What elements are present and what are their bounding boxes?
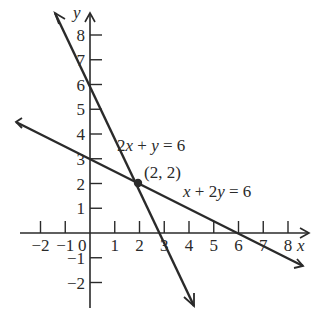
y-axis-label: y: [71, 3, 81, 22]
intersection-point: [134, 179, 142, 187]
x-tick-label: 1: [111, 236, 120, 255]
y-tick-label: 2: [77, 175, 86, 194]
equation-label-2: x + 2y = 6: [182, 182, 251, 201]
x-tick-label: 2: [135, 236, 144, 255]
x-tick-label: 8: [284, 236, 293, 255]
x-tick-label: 5: [210, 236, 219, 255]
x-tick-label: −2: [31, 236, 49, 255]
x-tick-label: 4: [185, 236, 194, 255]
origin-label: 0: [78, 236, 87, 255]
x-tick-label: 6: [234, 236, 243, 255]
y-tick-label: 8: [77, 26, 86, 45]
y-tick-label: 5: [77, 100, 86, 119]
x-axis-label: x: [296, 236, 305, 255]
y-tick-label: 4: [77, 125, 86, 144]
point-label: (2, 2): [144, 163, 181, 182]
equation-label-1: 2x + y = 6: [117, 136, 185, 155]
y-tick-label: 6: [77, 76, 86, 95]
graph: −2−112345678 −2−112345678 y x 0 (2, 2) 2…: [0, 0, 317, 310]
y-tick-label: 1: [77, 199, 86, 218]
y-tick-label: −2: [67, 274, 85, 293]
